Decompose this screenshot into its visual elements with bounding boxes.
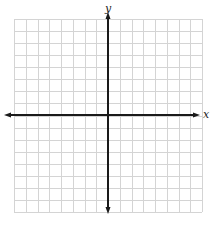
x-axis-label: x: [203, 109, 209, 120]
y-axis-label: y: [105, 3, 111, 14]
axes: [4, 12, 200, 214]
coordinate-plane: [0, 0, 216, 226]
arrow-left-icon: [4, 113, 11, 118]
